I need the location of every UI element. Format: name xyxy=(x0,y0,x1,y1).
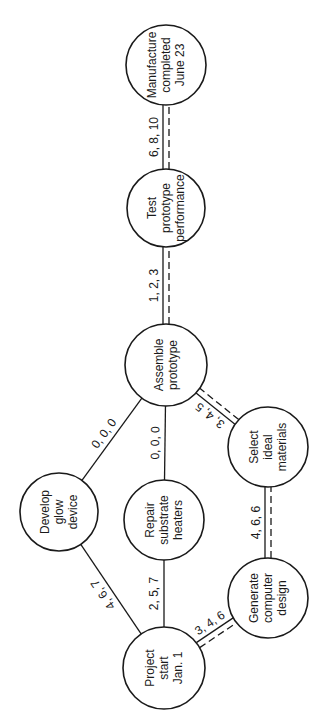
node-repair-heaters: Repairsubstrateheaters xyxy=(124,480,204,560)
node-label-line: Test xyxy=(145,196,159,219)
edge-assemble_prototype-to-test_prototype: 1, 2, 3 xyxy=(147,247,169,324)
node-label-line: prototype xyxy=(166,340,180,390)
edge-label: 1, 2, 3 xyxy=(147,268,161,302)
node-label-line: glow xyxy=(52,499,66,524)
edge-select_materials-to-assemble_prototype: 3, 4, 5 xyxy=(192,388,238,431)
edge-project_start-to-generate_design: 3, 4, 6 xyxy=(192,608,236,648)
node-label-line: performance xyxy=(173,174,187,242)
pert-network-diagram: 4, 6, 72, 5, 73, 4, 60, 0, 00, 0, 04, 6,… xyxy=(0,0,323,723)
node-label-line: substrate xyxy=(157,495,171,545)
node-label-line: Manufacture xyxy=(145,31,159,98)
edge-label: 4, 6, 6 xyxy=(249,505,263,539)
node-assemble-prototype: Assembleprototype xyxy=(125,324,207,406)
edge-project_start-to-repair_heaters: 2, 5, 7 xyxy=(147,560,164,627)
node-manufacture-completed: ManufacturecompletedJune 23 xyxy=(126,25,206,105)
node-label-line: Generate xyxy=(247,573,261,623)
node-label: Repairsubstrateheaters xyxy=(143,495,185,545)
node-label-line: materials xyxy=(275,423,289,472)
edge-label: 0, 0, 0 xyxy=(88,416,119,451)
edge-label: 6, 8, 10 xyxy=(147,117,161,157)
node-label-line: June 23 xyxy=(173,43,187,86)
node-label-line: start xyxy=(157,656,171,680)
node-label-line: design xyxy=(275,580,289,615)
node-develop-glow: Developglowdevice xyxy=(20,473,98,551)
edge-project_start-to-develop_glow: 4, 6, 7 xyxy=(81,544,141,634)
node-label-line: ideal xyxy=(261,434,275,459)
node-label-line: Assemble xyxy=(152,338,166,391)
node-label-line: Select xyxy=(247,430,261,464)
node-select-materials: Selectidealmaterials xyxy=(228,407,308,487)
edge-label: 0, 0, 0 xyxy=(148,426,162,460)
edge-develop_glow-to-assemble_prototype: 0, 0, 0 xyxy=(82,398,142,480)
node-label-line: prototype xyxy=(159,183,173,233)
edge-generate_design-to-select_materials: 4, 6, 6 xyxy=(249,487,271,558)
node-label-line: device xyxy=(66,494,80,529)
node-label-line: heaters xyxy=(171,500,185,540)
node-label-line: Project xyxy=(143,649,157,687)
edge-repair_heaters-to-assemble_prototype: 0, 0, 0 xyxy=(148,406,166,480)
node-label-line: completed xyxy=(159,37,173,92)
node-generate-design: Generatecomputerdesign xyxy=(228,558,308,638)
node-label-line: Jan. 1 xyxy=(171,651,185,684)
edge-label: 4, 6, 7 xyxy=(87,577,117,613)
node-test-prototype: Testprototypeperformance xyxy=(127,169,205,247)
node-label-line: Repair xyxy=(143,502,157,537)
node-label: Assembleprototype xyxy=(152,338,180,391)
edge-line xyxy=(165,406,166,480)
node-label-line: computer xyxy=(261,573,275,623)
node-label-line: Develop xyxy=(38,490,52,534)
node-project-start: ProjectstartJan. 1 xyxy=(123,627,205,709)
edge-test_prototype-to-manufacture_completed: 6, 8, 10 xyxy=(147,105,169,169)
edge-label: 2, 5, 7 xyxy=(147,576,161,610)
